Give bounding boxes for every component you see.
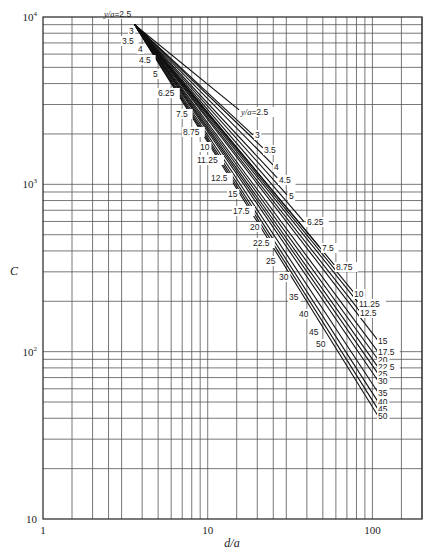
x-tick-label: 1 xyxy=(40,524,46,536)
curve-label: 45 xyxy=(309,327,319,337)
curve-label: 15 xyxy=(378,336,388,346)
curve-label: 10 xyxy=(354,289,364,299)
curve-y-over-a-11-25 xyxy=(135,25,358,302)
curve-label: 4.5 xyxy=(279,175,291,185)
curve-label: 22.5 xyxy=(253,238,270,248)
x-axis-ticks: 110100 xyxy=(40,524,381,536)
curve-label: 5 xyxy=(153,69,158,79)
curve-label: 6.25 xyxy=(158,88,175,98)
curve-label: 5 xyxy=(289,191,294,201)
curve-label: 6.25 xyxy=(307,217,324,227)
y-axis-ticks: 10410310210 xyxy=(23,10,38,525)
curve-labels-right: y/a=2.533.544.556.257.58.751011.2512.515… xyxy=(240,107,400,421)
curve-label: 10 xyxy=(200,142,210,152)
curve-label: 30 xyxy=(279,272,289,282)
curve-label: 40 xyxy=(299,309,309,319)
curve-label: 8.75 xyxy=(183,127,200,137)
curve-label: 4 xyxy=(138,44,143,54)
log-log-chart: y/a=2.533.544.556.257.58.751011.2512.515… xyxy=(0,0,436,554)
vertical-gridlines xyxy=(72,17,422,519)
y-tick-label: 103 xyxy=(23,177,38,190)
curve-label: 35 xyxy=(289,292,299,302)
curve-label: 3.5 xyxy=(264,145,276,155)
y-tick-label: 102 xyxy=(23,345,38,358)
y-axis-title: C xyxy=(10,264,19,278)
x-tick-label: 10 xyxy=(202,524,214,536)
curve-label: y/a=2.5 xyxy=(240,107,268,117)
y-tick-label: 104 xyxy=(23,10,38,23)
curve-label: 3 xyxy=(255,130,260,140)
curve-label: 8.75 xyxy=(336,262,353,272)
curve-label: 12.5 xyxy=(360,308,377,318)
x-axis-title: d/a xyxy=(224,536,239,550)
curve-label: 7.5 xyxy=(176,109,188,119)
curve-label: 15 xyxy=(228,189,238,199)
curve-label: 4 xyxy=(274,162,279,172)
x-tick-label: 100 xyxy=(364,524,381,536)
curve-label: 4.5 xyxy=(139,55,151,65)
curve-label: 25 xyxy=(266,256,276,266)
curve-label: 50 xyxy=(316,339,326,349)
curve-label: 12.5 xyxy=(211,173,228,183)
curve-label: 30 xyxy=(378,376,388,386)
curve-label: 20 xyxy=(250,222,260,232)
curve-label: 7.5 xyxy=(322,243,334,253)
curve-label: 3.5 xyxy=(122,36,134,46)
y-tick-label: 10 xyxy=(26,513,38,525)
curve-label: 11.25 xyxy=(197,155,218,165)
curve-label: 3 xyxy=(129,26,134,36)
curve-label: 17.5 xyxy=(233,206,250,216)
curve-label: 50 xyxy=(378,411,388,421)
